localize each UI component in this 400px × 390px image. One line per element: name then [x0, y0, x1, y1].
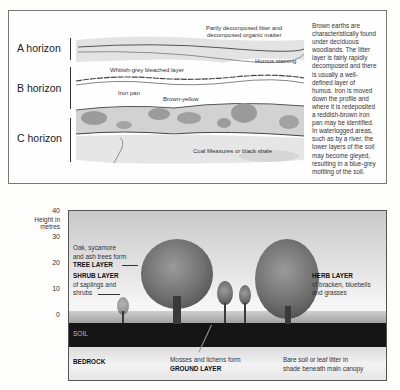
axis-label: Height in metres — [28, 216, 60, 230]
oak-tree-trunk-right — [285, 306, 291, 324]
brown-earths-description: Brown earths are characteristically foun… — [312, 22, 387, 176]
tree-layer-label: Oak, sycamore and ash trees form TREE LA… — [73, 244, 126, 270]
soil-label: SOIL — [73, 330, 88, 337]
litter-annotation: Partly decomposed litter and decomposed … — [206, 25, 282, 39]
axis-tick-0: 0 — [44, 311, 60, 318]
axis-tick-20: 20 — [44, 259, 60, 266]
shrub-trunk — [122, 311, 124, 323]
axis-tick-10: 10 — [44, 285, 60, 292]
brown-yellow-annotation: Brown-yellow — [163, 96, 199, 103]
axis-tick-40: 40 — [44, 207, 60, 214]
sapling-2-trunk — [244, 303, 246, 323]
sapling-2 — [239, 285, 251, 305]
humus-staining-annotation: Humus staining — [255, 58, 296, 65]
oak-tree-trunk-left — [173, 296, 181, 324]
woodland-layers-panel: Oak, sycamore and ash trees form TREE LA… — [68, 210, 387, 381]
axis-tick-30: 30 — [44, 233, 60, 240]
soil-band — [69, 323, 387, 347]
coal-measures-annotation: Coal Measures or black shale — [193, 148, 272, 155]
bedrock-label: BEDROCK — [73, 358, 105, 367]
sapling-1 — [217, 281, 233, 305]
sapling-1-trunk — [224, 303, 226, 323]
a-horizon-label: A horizon — [17, 42, 61, 54]
tree-layer-leader — [122, 265, 138, 266]
bare-soil-label: Bare soil or leaf litter in shade beneat… — [283, 356, 363, 373]
shrub-layer-leader — [98, 294, 120, 295]
herb-layer-label: HERB LAYER of bracken, bluebells and gra… — [312, 272, 371, 298]
c-horizon-label: C horizon — [17, 132, 62, 144]
iron-pan-annotation: Iron pan — [118, 90, 140, 97]
b-horizon-label: B horizon — [17, 82, 61, 94]
ground-layer-label: Mosses and lichens form GROUND LAYER — [170, 356, 241, 373]
bleached-layer-annotation: Whitish-grey bleached layer — [110, 67, 184, 74]
